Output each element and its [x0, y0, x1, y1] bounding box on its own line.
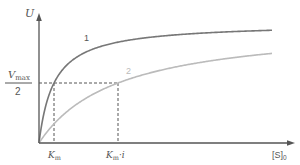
- y-axis-arrow-icon: [36, 13, 42, 21]
- x-axis-arrow-icon: [287, 140, 295, 146]
- substrate-symbol: [S]: [272, 150, 283, 160]
- curve-2-label: 2: [126, 66, 131, 76]
- curve-2: [39, 53, 272, 143]
- km-i-suffix: ·i: [119, 150, 125, 160]
- curve-1: [39, 30, 272, 143]
- axes: [39, 19, 289, 143]
- vmax-subscript: max: [15, 74, 30, 82]
- michaelis-menten-diagram: U Vmax 2 1 2 Km Km·i [S]0: [0, 0, 300, 165]
- km-subscript: m: [55, 154, 61, 162]
- vmax-half-numerator: Vmax: [8, 69, 30, 82]
- substrate-subscript: 0: [283, 154, 287, 161]
- vmax-half-denominator: 2: [15, 86, 21, 97]
- y-axis-label: U: [25, 7, 35, 20]
- x-axis-label: [S]0: [272, 150, 287, 161]
- curve-1-label: 1: [84, 33, 89, 43]
- km-i-label: Km·i: [105, 150, 125, 162]
- km-label: Km: [47, 150, 61, 162]
